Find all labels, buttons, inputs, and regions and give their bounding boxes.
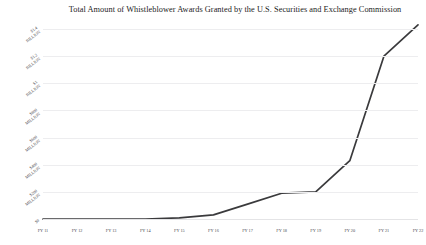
- y-axis-tick-label: $1.4BILLION: [23, 26, 42, 44]
- award-total-line-series: [43, 29, 418, 219]
- x-axis-tick-label: FY 17: [242, 228, 253, 233]
- whistleblower-awards-chart: Total Amount of Whistleblower Awards Gra…: [0, 0, 426, 245]
- gridline: [43, 138, 418, 139]
- gridline: [43, 83, 418, 84]
- gridline: [43, 219, 418, 220]
- x-axis-tick-label: FY 16: [208, 228, 219, 233]
- gridline: [43, 110, 418, 111]
- x-axis-tick-label: FY 12: [72, 228, 83, 233]
- y-axis-tick-label: $1BILLION: [23, 80, 42, 98]
- y-axis: $0$200MILLION$400MILLION$600MILLION$800M…: [0, 29, 43, 219]
- gridline: [43, 56, 418, 57]
- y-axis-tick-label: $1.2BILLION: [23, 53, 42, 71]
- x-axis-tick-label: FY 14: [140, 228, 151, 233]
- x-axis-tick-label: FY 18: [276, 228, 287, 233]
- gridline: [43, 192, 418, 193]
- x-axis-tick-label: FY 15: [174, 228, 185, 233]
- x-axis: FY 11FY 12FY 13FY 14FY 15FY 16FY 17FY 18…: [43, 228, 418, 240]
- gridline: [43, 29, 418, 30]
- y-axis-tick-label: $400MILLION: [22, 162, 42, 181]
- gridline: [43, 165, 418, 166]
- x-axis-tick-label: FY 11: [38, 228, 49, 233]
- y-axis-tick-label: $0: [34, 219, 40, 225]
- y-axis-tick-label: $600MILLION: [22, 135, 42, 154]
- x-axis-tick-label: FY 13: [106, 228, 117, 233]
- y-axis-tick-label: $200MILLION: [22, 189, 42, 208]
- plot-area: [43, 29, 418, 219]
- x-axis-tick-label: FY 21: [379, 228, 390, 233]
- x-axis-tick-label: FY 20: [344, 228, 355, 233]
- y-axis-tick-label: $800MILLION: [22, 108, 42, 127]
- x-axis-tick-label: FY 19: [310, 228, 321, 233]
- x-axis-tick-label: FY 22: [413, 228, 424, 233]
- chart-title: Total Amount of Whistleblower Awards Gra…: [52, 5, 418, 14]
